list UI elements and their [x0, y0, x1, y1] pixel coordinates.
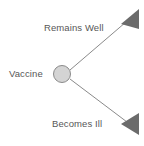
branch-line-becomes-ill: [70, 79, 127, 122]
branch-label-remains-well: Remains Well: [44, 23, 104, 33]
vaccine-outcome-diagram: Vaccine Remains Well Becomes Ill: [0, 0, 144, 146]
circle-node-icon-vaccine: [54, 66, 71, 83]
branch-label-becomes-ill: Becomes Ill: [52, 119, 102, 129]
triangle-arrowhead-icon-becomes-ill: [121, 113, 139, 135]
triangle-arrowhead-icon-remains-well: [121, 9, 139, 29]
node-label-vaccine: Vaccine: [9, 69, 43, 79]
